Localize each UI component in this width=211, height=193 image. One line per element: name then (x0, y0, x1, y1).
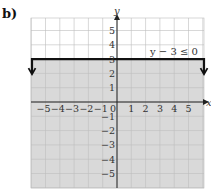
y-tick-label: 4 (109, 39, 115, 50)
inequality-label: y − 3 ≤ 0 (149, 46, 198, 57)
inequality-graph: −5−4−3−2−101234554321−1−2−3−4−5 y − 3 ≤ … (0, 0, 211, 193)
x-axis-label: x (206, 97, 211, 108)
x-tick-label: −3 (65, 103, 79, 114)
x-tick-label: 2 (143, 103, 149, 114)
x-tick-label: −2 (79, 103, 93, 114)
y-tick-label: 1 (109, 82, 115, 93)
y-axis-label: y (113, 5, 120, 16)
y-tick-label: 5 (109, 25, 115, 36)
x-tick-label: −4 (51, 103, 65, 114)
y-tick-label: −5 (101, 168, 115, 179)
y-tick-label: −1 (101, 111, 115, 122)
y-tick-label: 2 (109, 68, 115, 79)
x-tick-label: 3 (157, 103, 163, 114)
x-tick-label: 4 (171, 103, 177, 114)
y-tick-label: −3 (101, 139, 115, 150)
x-tick-label: −5 (36, 103, 50, 114)
x-tick-label: 5 (185, 103, 191, 114)
y-tick-label: −4 (101, 154, 115, 165)
x-tick-label: 1 (128, 103, 134, 114)
y-tick-label: −2 (101, 125, 115, 136)
y-tick-label: 3 (109, 54, 115, 65)
